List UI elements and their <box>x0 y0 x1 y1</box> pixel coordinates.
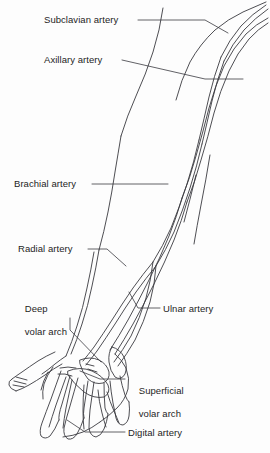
label-axillary-artery: Axillary artery <box>44 54 102 66</box>
label-subclavian-artery: Subclavian artery <box>44 14 118 26</box>
axilla-inner-line-2 <box>184 175 196 222</box>
label-brachial-artery: Brachial artery <box>14 178 76 190</box>
finger-3-inner <box>104 383 108 414</box>
torso-edge-outline <box>121 8 163 136</box>
finger-4 <box>110 381 130 425</box>
palm-vessel-connector <box>60 367 76 368</box>
ulnar-palm-loop <box>109 347 126 378</box>
label-superficial-volar-arch-line-1: Superficial <box>139 385 184 396</box>
figure-canvas: Subclavian artery Axillary artery Brachi… <box>0 0 270 453</box>
subclavian-vessel-2 <box>224 9 268 61</box>
leader-ulnar-artery <box>129 292 160 308</box>
leader-radial-artery <box>88 249 126 266</box>
brachial-vessel <box>153 140 199 262</box>
hand-outline-radial <box>42 356 66 374</box>
label-digital-artery: Digital artery <box>128 427 182 439</box>
label-radial-artery: Radial artery <box>18 243 73 255</box>
shoulder-outline <box>176 2 266 100</box>
thumb-crease-1 <box>14 381 26 384</box>
leader-digital-artery <box>67 420 125 432</box>
digital-vessels <box>49 377 66 427</box>
label-deep-volar-arch-line-1: Deep <box>25 303 48 314</box>
label-superficial-volar-arch: Superficial volar arch <box>128 373 184 431</box>
forearm-outer-outline <box>110 198 182 350</box>
palm-contour-2 <box>41 372 48 390</box>
label-deep-volar-arch: Deep volar arch <box>14 291 67 349</box>
label-deep-volar-arch-line-2: volar arch <box>25 326 67 337</box>
thumb-crease-2 <box>13 385 24 387</box>
palm-vessel-connector-3 <box>86 364 94 366</box>
upper-arm-inner-outline <box>99 136 121 250</box>
palm-vessel-connector-2 <box>58 374 72 376</box>
leader-axillary-artery <box>122 60 243 79</box>
brachial-vessel-2 <box>156 144 202 266</box>
label-ulnar-artery: Ulnar artery <box>163 303 213 315</box>
radial-vessel <box>83 262 153 361</box>
thumb-outline <box>12 352 55 379</box>
axilla-inner-line <box>194 155 210 244</box>
label-superficial-volar-arch-line-2: volar arch <box>139 408 181 419</box>
leader-deep-volar-arch <box>70 318 101 362</box>
thumb-crease-3 <box>16 377 27 380</box>
forearm-inner-outline <box>71 250 99 354</box>
upper-arm-outer-outline-2 <box>187 23 268 202</box>
